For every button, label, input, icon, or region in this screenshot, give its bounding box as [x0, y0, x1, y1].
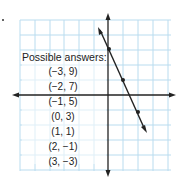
- answers-title: Possible answers:: [22, 51, 107, 63]
- x-axis-right-arrow-icon: [169, 93, 176, 98]
- answer-item: (−3, 9): [42, 66, 84, 77]
- answer-item: (−2, 7): [42, 81, 84, 92]
- coordinate-graph: [0, 0, 183, 181]
- answer-item: (2, −1): [42, 141, 84, 152]
- y-axis-down-arrow-icon: [106, 170, 111, 177]
- answer-item: (3, −3): [42, 156, 84, 167]
- answer-item: (0, 3): [42, 111, 84, 122]
- point-2-neg1: [136, 110, 140, 114]
- answer-item: (−1, 5): [42, 96, 84, 107]
- answer-item: (1, 1): [42, 126, 84, 137]
- point-0-3: [107, 47, 111, 51]
- y-axis-up-arrow-icon: [106, 13, 111, 20]
- line-bottom-arrow-icon: [141, 125, 147, 133]
- point-1-1: [121, 78, 125, 82]
- x-axis-left-arrow-icon: [12, 93, 19, 98]
